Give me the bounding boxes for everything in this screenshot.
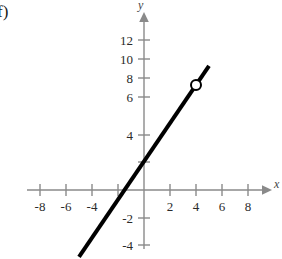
x-tick-labels: -8 -6 -4 2 4 6 8 (35, 199, 252, 214)
x-tick-label-4: 4 (193, 199, 200, 214)
y-tick-label--4: -4 (122, 238, 133, 253)
x-tick-label--6: -6 (61, 199, 72, 214)
x-axis-label: x (273, 177, 280, 191)
y-tick-label-4: 4 (127, 128, 134, 143)
y-tick-labels: 12 10 8 6 4 -2 -4 (120, 33, 134, 253)
graph-figure: f) x -8 -6 -4 2 4 6 8 (0, 0, 282, 259)
x-tick-label-8: 8 (245, 199, 252, 214)
open-circle-marker (191, 80, 201, 90)
y-axis-arrow (139, 12, 149, 22)
y-tick-label-8: 8 (127, 71, 134, 86)
y-axis: y (137, 0, 149, 249)
x-tick-label--8: -8 (35, 199, 46, 214)
y-tick-label-10: 10 (120, 52, 133, 67)
x-axis: x (27, 177, 280, 195)
y-axis-label: y (137, 0, 144, 12)
x-axis-arrow (262, 185, 272, 195)
x-tick-label-2: 2 (167, 199, 174, 214)
y-tick-label-6: 6 (127, 90, 134, 105)
y-tick-label-12: 12 (120, 33, 133, 48)
part-label: f) (0, 2, 8, 22)
x-tick-label--4: -4 (87, 199, 98, 214)
x-tick-label-6: 6 (219, 199, 226, 214)
y-tick-label--2: -2 (122, 211, 133, 226)
coordinate-plane: x -8 -6 -4 2 4 6 8 y (0, 0, 282, 259)
